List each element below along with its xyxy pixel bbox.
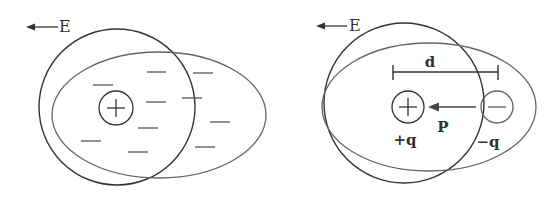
- separation-bar: [393, 65, 498, 80]
- polarization-diagram: E E: [0, 0, 556, 198]
- negative-charge-label: −q: [476, 133, 500, 151]
- dipole-moment-arrow: [428, 103, 476, 112]
- electric-field-arrow-left: E: [26, 17, 71, 36]
- negative-charge-right: [481, 91, 513, 123]
- nucleus-orbit-circle-right: [324, 23, 484, 183]
- separation-label: d: [425, 53, 436, 71]
- electron-cloud-ellipse-left: [52, 52, 266, 178]
- positive-charge-label: +q: [393, 131, 417, 149]
- field-label-left: E: [59, 17, 71, 36]
- electric-field-arrow-right: E: [316, 16, 361, 35]
- positive-nucleus-left: [99, 91, 133, 125]
- dipole-moment-label: P: [437, 118, 448, 136]
- right-panel-polarized-atom: E d P +q −q: [316, 16, 536, 183]
- positive-charge-right: [392, 91, 424, 123]
- left-panel-unpolarized-atom: E: [26, 17, 266, 185]
- field-label-right: E: [349, 16, 361, 35]
- negative-charge-dashes: [81, 72, 230, 152]
